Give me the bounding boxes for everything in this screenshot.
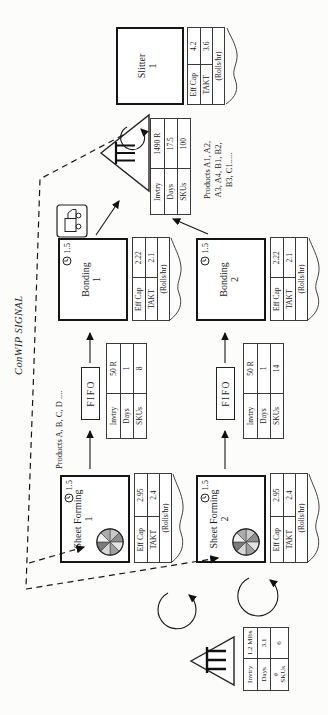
- process-number: 1: [91, 240, 102, 319]
- table-row: (Rolls/hr): [159, 474, 171, 562]
- table-row: Days3.1: [257, 628, 270, 690]
- fifo-lane-1: FIFO: [81, 367, 100, 420]
- table-row: Days17.5: [164, 119, 177, 214]
- row-value: 100: [178, 119, 190, 168]
- process-title: Bonding2: [218, 240, 240, 319]
- process-number: 1: [83, 477, 94, 561]
- row-value: 2.95: [135, 474, 147, 516]
- row-label: Invtry: [244, 658, 257, 690]
- clock-icon: [200, 256, 210, 266]
- process-box-slitter-1: Slitter1: [116, 27, 184, 105]
- row-value: 2.22: [271, 238, 283, 277]
- changeover-b1: 1.5: [62, 243, 72, 266]
- table-row: Eff Cap2.22: [133, 238, 145, 320]
- table-row: SKUs100: [177, 119, 190, 214]
- row-value: 3.6: [201, 28, 212, 64]
- table-row: TAKT2.4: [147, 474, 159, 562]
- row-value: 1.2 Mlbs: [244, 628, 257, 658]
- row-label: Eff Cap: [135, 516, 147, 562]
- table-row: TAKT2.1: [283, 238, 295, 320]
- row-label: Eff Cap: [271, 516, 283, 562]
- process-number: 2: [219, 477, 230, 561]
- table-row: (Rolls/hr): [295, 238, 307, 320]
- row-value: 8: [134, 344, 146, 393]
- data-table-sheet-forming-2: Eff Cap2.95 TAKT2.4 (Rolls/hr): [270, 473, 308, 563]
- products-finished-goods-label: Products A1, A2, A3, A4, B1, B2, B3, C1.…: [202, 113, 235, 227]
- table-row: TAKT2.1: [145, 238, 157, 320]
- products-line1-label: Products A, B, C, D ....: [54, 391, 64, 469]
- data-table-fifo-1: Invtry50 R Days1 SKUs8: [106, 343, 147, 439]
- row-label: Invtry: [244, 393, 257, 438]
- unit-label: (Rolls/hr): [213, 28, 224, 104]
- row-value: 1: [121, 344, 133, 393]
- row-value: 2.4: [148, 474, 159, 516]
- vsm-canvas: ConWIP SIGNAL Products A, B, C, D .... P…: [0, 0, 328, 715]
- stacked-material-icon: [207, 647, 226, 673]
- loop-arrow-inventory: [121, 127, 145, 150]
- table-row: Invtry1.2 Mlbs: [244, 628, 257, 690]
- process-box-bonding-1: 1.5 Bonding1: [58, 238, 128, 321]
- row-value: 2.22: [133, 238, 145, 277]
- unit-label: (Rolls/hr): [296, 238, 307, 320]
- changeover-value: 1.5: [200, 243, 210, 254]
- clock-icon: [62, 256, 72, 266]
- process-box-bonding-2: 1.5 Bonding2: [196, 238, 266, 321]
- process-title: Sheet Forming2: [208, 477, 230, 561]
- row-label: Eff Cap: [133, 277, 145, 320]
- truck-icon: [57, 205, 87, 237]
- process-box-sheet-forming-1: 1.5 Sheet Forming1: [60, 475, 130, 563]
- process-name: Bonding: [80, 262, 91, 296]
- data-table-bonding-1: Eff Cap2.22 TAKT2.1 (Rolls/hr): [132, 237, 170, 321]
- conwip-signal-label: ConWIP SIGNAL: [13, 296, 24, 375]
- row-label: Invtry: [151, 168, 164, 214]
- row-label: SKUs: [271, 393, 283, 438]
- row-label: TAKT: [284, 277, 295, 320]
- row-label: SKUs: [178, 168, 190, 214]
- row-label: Eff Cap: [271, 277, 283, 320]
- data-table-slitter: Eff Cap4.2 TAKT3.6 (Rolls/hr): [187, 27, 225, 105]
- table-row: Invtry50 R: [107, 344, 120, 438]
- row-label: Days: [121, 393, 133, 438]
- row-value: 1490 R: [151, 119, 164, 168]
- table-row: Days1: [120, 344, 133, 438]
- pie-schedule-icon: [231, 527, 261, 557]
- row-label: # SKUs: [271, 658, 288, 690]
- data-table-raw-inventory: Invtry1.2 Mlbs Days3.1 # SKUs6: [243, 627, 289, 691]
- pie-schedule-icon: [95, 527, 125, 557]
- process-box-sheet-forming-2: 1.5 Sheet Forming2: [196, 475, 266, 563]
- loop-arrow-1: [158, 593, 196, 629]
- unit-label: (Rolls/hr): [160, 474, 171, 562]
- process-title: Bonding1: [80, 240, 102, 319]
- table-row: (Rolls/hr): [212, 28, 224, 104]
- row-value: 50 R: [107, 344, 120, 393]
- row-label: TAKT: [201, 64, 212, 104]
- row-value: 2.4: [284, 474, 295, 516]
- table-row: TAKT3.6: [200, 28, 212, 104]
- table-row: Invtry50 R: [244, 344, 257, 438]
- loop-arrow-2: [238, 578, 278, 616]
- unit-label: (Rolls/hr): [296, 474, 307, 562]
- row-value: 3.1: [258, 628, 270, 658]
- process-name: Sheet Forming: [72, 489, 83, 548]
- row-value: 2.1: [146, 238, 157, 277]
- table-row: Eff Cap2.22: [271, 238, 283, 320]
- table-row: TAKT2.4: [283, 474, 295, 562]
- raw-material-triangle: [191, 637, 234, 685]
- unit-label: (Rolls/hr): [158, 238, 169, 320]
- data-table-bonding-2: Eff Cap2.22 TAKT2.1 (Rolls/hr): [270, 237, 308, 321]
- row-value: 50 R: [244, 344, 257, 393]
- row-label: TAKT: [146, 277, 157, 320]
- table-row: SKUs8: [133, 344, 146, 438]
- row-label: Eff Cap: [188, 64, 200, 104]
- process-name: Sheet Forming: [208, 489, 219, 548]
- vsm-diagram-page: ConWIP SIGNAL Products A, B, C, D .... P…: [0, 0, 328, 715]
- changeover-b2: 1.5: [200, 243, 210, 266]
- process-title: Sheet Forming1: [72, 477, 94, 561]
- row-value: 4.2: [188, 28, 200, 64]
- changeover-value: 1.5: [62, 243, 72, 254]
- table-row: Eff Cap2.95: [135, 474, 147, 562]
- row-value: 2.95: [271, 474, 283, 516]
- table-row: (Rolls/hr): [295, 474, 307, 562]
- row-value: 17.5: [165, 119, 177, 168]
- row-label: TAKT: [284, 516, 295, 562]
